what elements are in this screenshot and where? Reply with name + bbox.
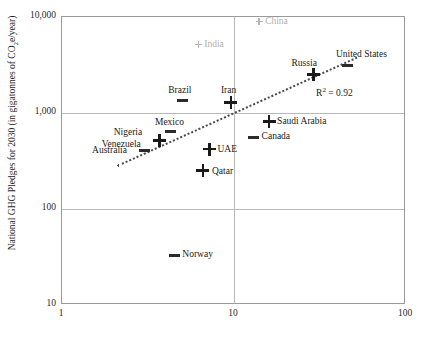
y-tick-label: 1,000 [4, 107, 56, 117]
x-tick-label: 1 [41, 309, 81, 319]
point-label-united-states: United States [336, 49, 387, 59]
point-label-china: China [265, 16, 288, 26]
data-point-marker [139, 149, 150, 152]
point-label-india: India [204, 39, 224, 49]
point-label-norway: Norway [182, 249, 213, 259]
x-tick-label: 10 [213, 309, 253, 319]
point-label-russia: Russia [292, 58, 317, 68]
point-label-qatar: Qatar [212, 166, 233, 176]
data-point-marker [195, 41, 202, 48]
data-point-marker [169, 254, 180, 257]
point-label-mexico: Mexico [155, 117, 184, 127]
y-axis-title: National GHG Pledges for 2030 (in gigato… [7, 0, 21, 273]
data-point-marker [248, 136, 259, 139]
data-point-marker [342, 64, 353, 67]
data-point-marker [177, 99, 188, 102]
point-label-saudi-arabia: Saudi Arabia [277, 116, 326, 126]
x-tick-label: 100 [385, 309, 425, 319]
point-label-iran: Iran [221, 85, 236, 95]
data-point-marker [203, 143, 216, 156]
point-label-canada: Canada [262, 131, 291, 141]
plot-area: ChinaIndiaUnited StatesRussiaBrazilIranS… [61, 16, 405, 304]
gridline-vertical [234, 17, 235, 303]
point-label-brazil: Brazil [168, 85, 191, 95]
trendline-dotted [117, 56, 358, 166]
gridline-horizontal [62, 209, 404, 210]
data-point-marker [153, 134, 166, 147]
y-tick-label: 10,000 [4, 11, 56, 21]
point-label-nigeria: Nigeria [114, 127, 143, 137]
y-tick-label: 10 [4, 299, 56, 309]
data-point-marker [263, 115, 276, 128]
y-tick-label: 100 [4, 203, 56, 213]
point-label-australia: Australia [92, 145, 127, 155]
data-point-marker [196, 164, 209, 177]
data-point-marker [256, 18, 263, 25]
data-point-marker [224, 96, 237, 109]
scatter-chart: National GHG Pledges for 2030 (in gigato… [0, 0, 429, 341]
data-point-marker [165, 130, 176, 133]
point-label-uae: UAE [217, 144, 237, 154]
r-squared-annotation: R2 = 0.92 [316, 86, 353, 98]
data-point-marker [307, 68, 320, 81]
